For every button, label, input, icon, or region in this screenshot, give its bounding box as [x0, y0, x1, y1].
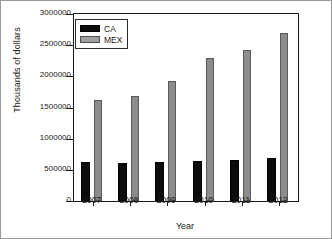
bar-mex-2011	[243, 50, 251, 201]
y-axis-title: Thousands of dollars	[10, 0, 24, 140]
legend-swatch-ca	[80, 25, 100, 32]
bar-mex-2009	[168, 81, 176, 201]
x-tick-label-2012: 2012	[258, 195, 298, 205]
x-tick-label-2010: 2010	[184, 195, 224, 205]
y-tick-label: 500000	[44, 164, 71, 173]
y-tick-label: 0	[67, 195, 71, 204]
x-tick-label-2011: 2011	[221, 195, 261, 205]
y-tick-label: 1000000	[40, 133, 71, 142]
legend-label-mex: MEX	[104, 35, 122, 45]
bar-mex-2010	[206, 58, 214, 201]
legend-swatch-mex	[80, 36, 100, 43]
y-tick-label: 1500000	[40, 102, 71, 111]
x-tick-label-2008: 2008	[109, 195, 149, 205]
chart-figure: Thousands of dollars Year 05000001000000…	[0, 0, 332, 239]
x-axis-title: Year	[73, 221, 297, 231]
legend-item-ca: CA	[80, 23, 122, 34]
bar-mex-2012	[280, 33, 288, 201]
y-tick-label: 2500000	[40, 39, 71, 48]
y-tick-label: 2000000	[40, 70, 71, 79]
bar-mex-2007	[94, 100, 102, 201]
chart-legend: CA MEX	[75, 19, 128, 49]
legend-label-ca: CA	[104, 24, 116, 34]
y-tick-label: 3000000	[40, 8, 71, 17]
legend-item-mex: MEX	[80, 34, 122, 45]
x-tick-label-2007: 2007	[72, 195, 112, 205]
bar-mex-2008	[131, 96, 139, 201]
x-tick-label-2009: 2009	[146, 195, 186, 205]
